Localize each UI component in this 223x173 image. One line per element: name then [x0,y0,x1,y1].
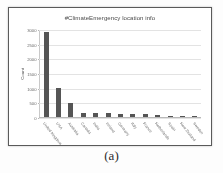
y-tick-mark [38,45,40,46]
x-tick-labels-group: United KingdomUSAAustraliaCanadaIndiaIre… [40,120,202,146]
y-tick-mark [38,59,40,60]
x-tick-label: Spain [167,121,177,132]
bar [118,114,123,117]
y-tick-label: 0 [34,116,36,121]
x-label-slot: Italy [127,120,139,146]
y-tick-mark [38,74,40,75]
bar [180,116,185,117]
x-label-slot: Ireland [102,120,114,146]
plot-area: 050010001500200025003000 Count [39,30,201,118]
bar-slot [65,30,77,117]
bars-group [40,30,201,117]
x-label-slot: USA [52,120,64,146]
x-label-slot: Netherlands [152,120,164,146]
bar-slot [152,30,164,117]
x-label-slot: India [90,120,102,146]
y-tick-mark [38,118,40,119]
bar [68,103,73,117]
y-tick-label: 2500 [27,42,36,47]
bar [93,113,98,117]
bar [44,32,49,117]
chart-title: #ClimateEmergency location info [9,14,211,21]
bar [106,113,111,117]
y-tick-label: 1500 [27,72,36,77]
x-label-slot: Germany [115,120,127,146]
x-label-slot: Sweden [190,120,202,146]
bar-slot [52,30,64,117]
x-label-slot: Canada [77,120,89,146]
x-tick-label: India [92,121,101,131]
x-label-slot: France [140,120,152,146]
x-label-slot: United Kingdom [40,120,52,146]
bar [192,116,197,117]
x-label-slot: New Zealand [177,120,189,146]
bar-slot [40,30,52,117]
bar-slot [176,30,188,117]
bar [81,113,86,117]
bar-slot [102,30,114,117]
bar-slot [114,30,126,117]
y-tick-label: 1000 [27,86,36,91]
x-label-slot: Spain [165,120,177,146]
bar-slot [139,30,151,117]
x-tick-label: Italy [130,121,138,130]
bar-slot [90,30,102,117]
y-tick-mark [38,89,40,90]
bar-slot [127,30,139,117]
bar [56,88,61,117]
bar [143,114,148,117]
bar [130,114,135,117]
bar-slot [164,30,176,117]
y-tick-mark [38,103,40,104]
chart-image-frame: #ClimateEmergency location info 05001000… [8,7,212,146]
y-axis-label: Count [20,68,25,80]
x-tick-label: USA [55,121,64,130]
x-label-slot: Australia [65,120,77,146]
figure-caption: (a) [0,148,223,164]
y-tick-mark [38,30,40,31]
y-tick-label: 3000 [27,28,36,33]
bar-slot [77,30,89,117]
y-tick-label: 2000 [27,57,36,62]
figure-panel: #ClimateEmergency location info 05001000… [0,0,223,173]
x-tick-label: Sweden [192,121,205,135]
gridline [39,118,201,119]
bar [168,116,173,117]
bar-slot [189,30,201,117]
y-tick-label: 500 [30,101,37,106]
bar [155,115,160,117]
